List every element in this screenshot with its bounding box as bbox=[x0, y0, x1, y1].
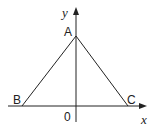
y-axis-arrow-icon bbox=[73, 7, 79, 15]
x-axis-label: x bbox=[140, 112, 147, 127]
segment-ac bbox=[76, 36, 128, 106]
point-a-label: A bbox=[64, 25, 72, 39]
y-axis-label: y bbox=[60, 5, 68, 20]
x-axis-arrow-icon bbox=[139, 103, 147, 109]
segment-ab bbox=[22, 36, 76, 106]
point-b-label: B bbox=[13, 93, 21, 107]
origin-label: 0 bbox=[64, 110, 71, 124]
point-c-label: C bbox=[127, 93, 136, 107]
diagram-canvas: y x 0 A B C bbox=[0, 0, 159, 129]
